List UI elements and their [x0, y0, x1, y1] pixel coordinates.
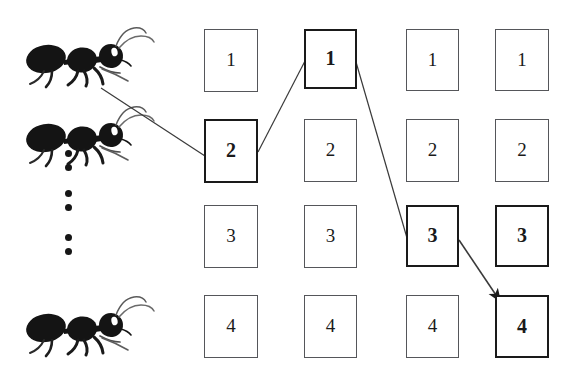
node-cell-label: 4: [226, 316, 236, 335]
node-cell-label: 2: [428, 140, 438, 159]
node-cell-c3r2[interactable]: 2: [406, 119, 459, 182]
node-cell-label: 3: [428, 225, 438, 245]
node-cell-c1r4[interactable]: 4: [204, 295, 258, 358]
node-cell-c2r2[interactable]: 2: [304, 119, 357, 182]
node-cell-label: 3: [226, 226, 236, 245]
node-cell-c1r2[interactable]: 2: [204, 119, 258, 183]
node-cell-label: 4: [517, 316, 527, 336]
node-cell-c3r4[interactable]: 4: [406, 295, 459, 358]
node-cell-c2r3[interactable]: 3: [304, 205, 357, 268]
node-cell-c4r3[interactable]: 3: [495, 205, 549, 267]
node-cell-label: 1: [226, 50, 236, 69]
node-cell-c2r1[interactable]: 1: [304, 29, 357, 89]
node-cell-label: 3: [517, 225, 527, 245]
node-cell-c3r1[interactable]: 1: [406, 29, 459, 91]
node-cell-c4r2[interactable]: 2: [495, 119, 549, 182]
node-cell-label: 3: [326, 226, 336, 245]
node-cell-label: 4: [326, 316, 336, 335]
node-cell-label: 1: [428, 50, 438, 69]
diagram-canvas: 1111222233334444: [0, 0, 582, 385]
node-cell-label: 1: [326, 48, 336, 68]
node-cell-c3r3[interactable]: 3: [406, 205, 459, 267]
node-cell-c4r1[interactable]: 1: [495, 29, 549, 91]
node-cell-label: 2: [326, 140, 336, 159]
node-cell-c4r4[interactable]: 4: [495, 295, 549, 358]
node-cell-c2r4[interactable]: 4: [304, 295, 357, 358]
node-grid: 1111222233334444: [0, 0, 582, 385]
node-cell-label: 2: [226, 140, 236, 160]
node-cell-c1r1[interactable]: 1: [204, 29, 258, 92]
node-cell-label: 2: [517, 140, 527, 159]
node-cell-c1r3[interactable]: 3: [204, 205, 258, 268]
node-cell-label: 4: [428, 316, 438, 335]
node-cell-label: 1: [517, 50, 527, 69]
